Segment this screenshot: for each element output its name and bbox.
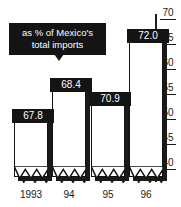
bar-zigzag-break-icon <box>14 165 48 178</box>
category-label-96: 96 <box>123 189 169 201</box>
bar-zigzag-break-icon <box>129 165 163 178</box>
callout-line-1: as % of Mexico's <box>12 27 103 39</box>
bar-zigzag-break-icon <box>91 165 125 178</box>
callout-box: as % of Mexico's total imports <box>9 23 106 55</box>
plot-area: 67.868.470.972.0 1993949596 706560555045… <box>0 0 181 207</box>
bar-94 <box>52 80 86 177</box>
value-label-96: 72.0 <box>127 29 169 43</box>
bar-body <box>129 31 163 177</box>
bar-95 <box>91 94 125 177</box>
bar-zigzag-break-icon <box>52 165 86 178</box>
value-label-94: 68.4 <box>50 78 92 92</box>
value-label-1993: 67.8 <box>12 109 54 123</box>
bar-chart: 67.868.470.972.0 1993949596 706560555045… <box>0 0 181 207</box>
callout-line-2: total imports <box>12 39 103 51</box>
y-tick-70: 70 <box>160 7 176 20</box>
bar-body <box>52 80 86 177</box>
bar-96 <box>129 31 163 177</box>
callout-tail-icon <box>54 54 64 61</box>
value-label-95: 70.9 <box>89 92 131 106</box>
